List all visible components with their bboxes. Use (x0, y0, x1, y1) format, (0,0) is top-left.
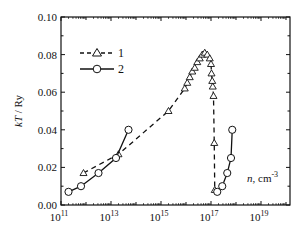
triangle-marker-icon (210, 92, 217, 98)
legend-label-2: 2 (118, 62, 124, 76)
x-tick-label: 1017 (200, 209, 219, 223)
circle-marker-icon (224, 169, 231, 176)
triangle-marker-icon (211, 139, 218, 145)
circle-marker-icon (65, 188, 72, 195)
y-tick-label: 0.08 (38, 49, 58, 61)
triangle-marker-icon (181, 85, 188, 91)
y-tick-label: 0.04 (38, 124, 58, 136)
triangle-marker-icon (80, 170, 87, 176)
chart: 0.000.020.040.060.080.10 101110131015101… (0, 0, 304, 231)
x-tick-label: 1015 (150, 209, 169, 223)
triangle-marker-icon (209, 83, 216, 89)
legend: 1 2 (80, 46, 124, 76)
circle-marker-icon (93, 65, 101, 73)
circle-marker-icon (219, 183, 226, 190)
y-tick-label: 0.00 (38, 199, 58, 211)
triangle-marker-icon (186, 74, 193, 80)
triangle-marker-icon (209, 77, 216, 83)
x-tick-label: 1019 (250, 209, 269, 223)
x-axis-label: n, cm-3 (247, 170, 278, 184)
x-tick-labels: 10111013101510171019 (50, 209, 269, 223)
circle-marker-icon (77, 183, 84, 190)
x-tick-label: 1011 (50, 209, 69, 223)
y-tick-label: 0.06 (38, 86, 58, 98)
triangle-marker-icon (184, 79, 191, 85)
x-tick-label: 1013 (100, 209, 119, 223)
y-tick-label: 0.02 (38, 161, 57, 173)
legend-label-1: 1 (118, 46, 124, 60)
circle-marker-icon (95, 169, 102, 176)
circle-marker-icon (112, 154, 119, 161)
triangle-marker-icon (93, 49, 102, 57)
y-axis-label: kT / Ry (12, 95, 24, 127)
circle-marker-icon (125, 126, 132, 133)
y-tick-label: 0.10 (38, 11, 58, 23)
circle-marker-icon (229, 126, 236, 133)
triangle-marker-icon (208, 61, 215, 67)
y-tick-labels: 0.000.020.040.060.080.10 (38, 11, 58, 211)
triangle-marker-icon (208, 70, 215, 76)
series-2-solid-circles (65, 126, 236, 195)
circle-marker-icon (227, 154, 234, 161)
